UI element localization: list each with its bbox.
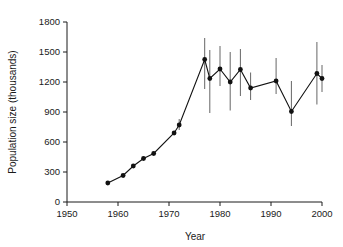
data-point (202, 57, 207, 62)
y-tick-label: 1500 (39, 46, 60, 57)
x-tick-label: 1960 (107, 208, 128, 219)
data-point (151, 151, 156, 156)
y-tick-label: 0 (55, 196, 60, 207)
population-trend-line (108, 60, 322, 184)
population-line-chart: 195019601970198019902000 030060090012001… (0, 0, 343, 247)
series-line (108, 60, 322, 184)
y-tick-label: 600 (44, 136, 60, 147)
x-tick-label: 1970 (158, 208, 179, 219)
chart-figure: 195019601970198019902000 030060090012001… (0, 0, 343, 247)
y-tick-labels: 0300600900120015001800 (39, 16, 60, 207)
data-point (320, 76, 325, 81)
x-axis-title: Year (185, 231, 206, 242)
data-point (238, 67, 243, 72)
data-point (248, 86, 253, 91)
y-tick-label: 1800 (39, 16, 60, 27)
data-point (172, 131, 177, 136)
data-point (289, 109, 294, 114)
y-tick-label: 1200 (39, 76, 60, 87)
x-tick-label: 1980 (209, 208, 230, 219)
x-tick-labels: 195019601970198019902000 (56, 208, 332, 219)
data-point (121, 173, 126, 178)
data-point (131, 164, 136, 169)
data-point (141, 156, 146, 161)
data-point (315, 71, 320, 76)
data-point (177, 123, 182, 128)
data-point (105, 181, 110, 186)
x-tick-label: 1950 (56, 208, 77, 219)
data-point (228, 80, 233, 85)
error-bars (179, 38, 322, 130)
data-point (274, 79, 279, 84)
y-tick-label: 300 (44, 166, 60, 177)
axes (63, 22, 322, 206)
data-point (207, 76, 212, 81)
y-axis-title: Population size (thousands) (7, 50, 18, 173)
y-tick-label: 900 (44, 106, 60, 117)
x-tick-label: 2000 (311, 208, 332, 219)
x-tick-label: 1990 (260, 208, 281, 219)
data-point (218, 67, 223, 72)
